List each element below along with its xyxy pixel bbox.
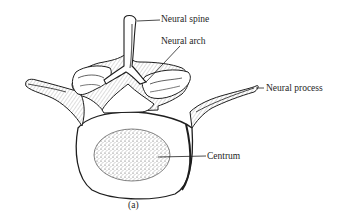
label-neural-process: Neural process bbox=[266, 84, 323, 94]
label-neural-arch: Neural arch bbox=[161, 37, 206, 47]
label-neural-spine: Neural spine bbox=[161, 15, 209, 25]
centrum-core bbox=[94, 129, 170, 181]
leader-neural-spine bbox=[137, 20, 160, 21]
right-process bbox=[190, 86, 258, 128]
label-centrum: Centrum bbox=[207, 152, 240, 162]
vertebra-diagram: Neural spine Neural arch Neural process … bbox=[0, 0, 346, 220]
figure-caption: (a) bbox=[128, 201, 139, 211]
vertebra-drawing bbox=[0, 0, 346, 220]
right-articular bbox=[142, 70, 190, 99]
